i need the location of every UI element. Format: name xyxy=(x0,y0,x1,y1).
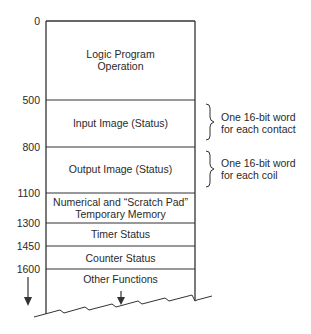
annotation-output: One 16-bit word for each coil xyxy=(221,157,296,181)
address-label: 0 xyxy=(0,15,40,27)
segment-output-image: Output Image (Status) xyxy=(46,163,195,175)
segment-label-line: Operation xyxy=(46,60,195,72)
segment-label-line: Output Image (Status) xyxy=(46,163,195,175)
address-label: 1300 xyxy=(0,217,40,229)
segment-counter-status: Counter Status xyxy=(46,252,195,264)
address-label: 800 xyxy=(0,141,40,153)
segment-logic-program: Logic Program Operation xyxy=(46,48,195,72)
segment-label-line: Temporary Memory xyxy=(46,208,195,220)
segment-timer-status: Timer Status xyxy=(46,228,195,240)
annotation-line: One 16-bit word xyxy=(221,111,296,123)
address-label: 1450 xyxy=(0,240,40,252)
annotation-line: for each contact xyxy=(221,123,296,135)
segment-label-line: Logic Program xyxy=(46,48,195,60)
other-functions-down-arrow-icon xyxy=(117,291,125,305)
address-label: 1100 xyxy=(0,187,40,199)
address-label: 500 xyxy=(0,94,40,106)
segment-label-line: Numerical and “Scratch Pad” xyxy=(46,196,195,208)
continues-down-arrow-icon xyxy=(24,277,32,306)
address-label: 1600 xyxy=(0,263,40,275)
segment-scratch-pad: Numerical and “Scratch Pad” Temporary Me… xyxy=(46,196,195,220)
segment-label-line: Timer Status xyxy=(46,228,195,240)
segment-other-functions: Other Functions xyxy=(46,273,195,285)
annotation-line: for each coil xyxy=(221,169,296,181)
segment-label-line: Input Image (Status) xyxy=(46,117,195,129)
annotation-line: One 16-bit word xyxy=(221,157,296,169)
brace-icon xyxy=(206,104,214,140)
segment-label-line: Counter Status xyxy=(46,252,195,264)
segment-input-image: Input Image (Status) xyxy=(46,117,195,129)
annotation-input: One 16-bit word for each contact xyxy=(221,111,296,135)
brace-icon xyxy=(206,151,214,187)
segment-label-line: Other Functions xyxy=(46,273,195,285)
